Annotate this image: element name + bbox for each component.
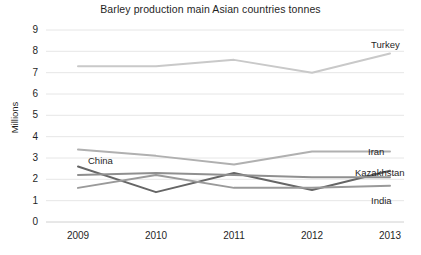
gridlines — [46, 30, 404, 222]
series-label-india: India — [371, 196, 392, 206]
x-tick-2010: 2010 — [126, 231, 186, 241]
x-tick-2011: 2011 — [204, 231, 264, 241]
line-chart: Barley production main Asian countries t… — [0, 0, 421, 255]
series-label-iran: Iran — [368, 147, 384, 157]
x-tick-2009: 2009 — [48, 231, 108, 241]
series-label-china: China — [88, 156, 113, 166]
x-tick-2012: 2012 — [282, 231, 342, 241]
series-label-kazakhstan: Kazakhstan — [355, 168, 405, 178]
plot-area — [0, 0, 421, 255]
x-tick-2013: 2013 — [360, 231, 420, 241]
series-line-iran — [78, 149, 390, 164]
series-label-turkey: Turkey — [371, 40, 400, 50]
series-lines — [78, 53, 390, 192]
series-line-turkey — [78, 53, 390, 72]
